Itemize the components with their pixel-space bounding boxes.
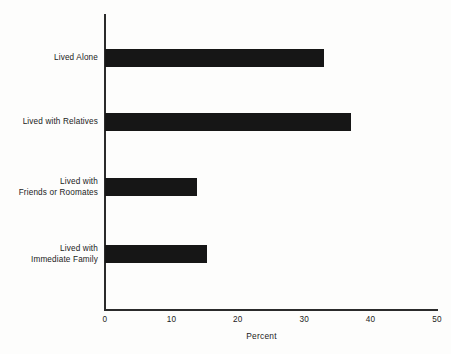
x-tick-label-20: 20 — [233, 315, 243, 324]
bar-lived-alone — [105, 49, 324, 67]
x-axis-title-text: Percent — [246, 331, 277, 341]
x-tick-label-10: 10 — [167, 315, 177, 324]
category-label-lived-with-immediate-family: Lived with Immediate Family — [31, 244, 98, 265]
x-tick-label-50: 50 — [432, 315, 442, 324]
bar-chart: Lived Alone Lived with Relatives Lived w… — [0, 0, 451, 354]
x-axis-title: Percent — [0, 331, 451, 341]
x-axis-line — [104, 309, 438, 311]
x-tick-label-40: 40 — [366, 315, 376, 324]
bar-lived-with-relatives — [105, 113, 351, 131]
category-label-lived-with-relatives: Lived with Relatives — [23, 117, 98, 128]
category-label-lived-alone: Lived Alone — [54, 53, 98, 64]
x-tick-label-30: 30 — [299, 315, 309, 324]
bar-lived-with-immediate-family — [105, 245, 207, 263]
x-tick-label-0: 0 — [103, 315, 108, 324]
category-label-lived-with-friends-or-roomates: Lived with Friends or Roomates — [19, 177, 98, 198]
bar-lived-with-friends-or-roomates — [105, 178, 197, 196]
